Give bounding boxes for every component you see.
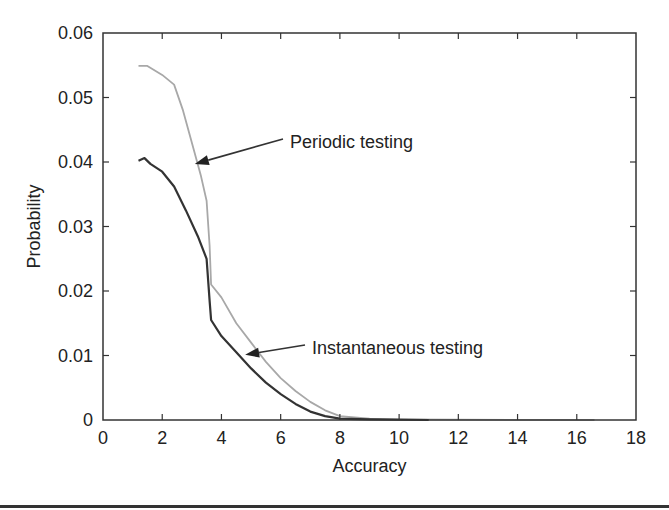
y-tick-label: 0.01	[58, 346, 93, 366]
x-tick-label: 0	[98, 428, 108, 448]
x-axis-label: Accuracy	[332, 456, 406, 476]
y-tick-label: 0.04	[58, 152, 93, 172]
x-tick-label: 10	[389, 428, 409, 448]
y-tick-label: 0.03	[58, 217, 93, 237]
y-axis-label: Probability	[24, 184, 44, 268]
x-axis-tick-labels: 024681012141618	[98, 428, 646, 448]
instantaneous-arrow-icon	[259, 345, 305, 353]
axis-ticks	[103, 33, 636, 420]
y-tick-label: 0.02	[58, 281, 93, 301]
x-tick-label: 16	[567, 428, 587, 448]
y-tick-label: 0.06	[58, 23, 93, 43]
instantaneous-arrowhead-icon	[245, 348, 260, 358]
plot-frame	[103, 33, 636, 420]
series-layer	[139, 66, 595, 420]
y-tick-label: 0.05	[58, 88, 93, 108]
series-line-0	[139, 66, 595, 420]
x-tick-label: 6	[276, 428, 286, 448]
x-tick-label: 2	[157, 428, 167, 448]
x-tick-label: 14	[508, 428, 528, 448]
y-axis-tick-labels: 00.010.020.030.040.050.06	[58, 23, 93, 430]
periodic-arrow-icon	[208, 139, 283, 160]
bottom-rule-divider	[0, 505, 669, 508]
y-tick-label: 0	[83, 410, 93, 430]
periodic-testing-label: Periodic testing	[290, 132, 413, 152]
x-tick-label: 4	[216, 428, 226, 448]
instantaneous-testing-label: Instantaneous testing	[312, 338, 483, 358]
line-chart: 024681012141618 00.010.020.030.040.050.0…	[0, 0, 669, 510]
x-tick-label: 18	[626, 428, 646, 448]
x-tick-label: 8	[335, 428, 345, 448]
x-tick-label: 12	[448, 428, 468, 448]
